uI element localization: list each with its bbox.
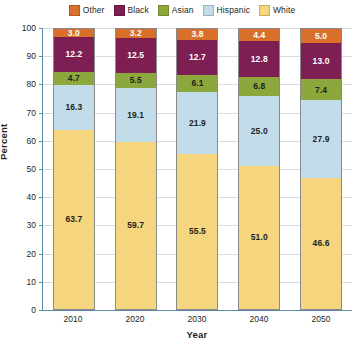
bar-column-2030[interactable]: 3.812.76.121.955.5 xyxy=(176,28,218,310)
bar-column-2050[interactable]: 5.013.07.427.946.6 xyxy=(300,28,342,310)
bar-segment-value: 3.2 xyxy=(130,29,142,38)
bar-segment-asian[interactable]: 4.7 xyxy=(54,72,94,85)
y-tick-label: 80 xyxy=(27,79,36,89)
bar-segment-white[interactable]: 55.5 xyxy=(177,154,217,309)
bar-segment-white[interactable]: 63.7 xyxy=(54,130,94,308)
bar-segment-value: 63.7 xyxy=(65,215,82,224)
bar-segment-white[interactable]: 46.6 xyxy=(301,178,341,308)
y-tick-label: 30 xyxy=(27,220,36,230)
bar-segment-asian[interactable]: 6.1 xyxy=(177,75,217,92)
bar-segment-value: 6.1 xyxy=(191,79,203,88)
bar-segment-value: 16.3 xyxy=(65,103,82,112)
bar-segment-hispanic[interactable]: 25.0 xyxy=(239,96,279,166)
bars-container: 3.012.24.716.363.73.212.55.519.159.73.81… xyxy=(43,28,352,310)
bar-column-2020[interactable]: 3.212.55.519.159.7 xyxy=(115,28,157,310)
bar-segment-asian[interactable]: 5.5 xyxy=(116,73,156,88)
bar-segment-other[interactable]: 4.4 xyxy=(239,29,279,41)
bar-segment-value: 6.8 xyxy=(253,82,265,91)
legend-swatch-asian-icon xyxy=(158,5,169,16)
legend-swatch-black-icon xyxy=(114,5,125,16)
bar-column-2010[interactable]: 3.012.24.716.363.7 xyxy=(53,28,95,310)
x-tick-label-2040: 2040 xyxy=(238,314,280,324)
stacked-bar-chart: OtherBlackAsianHispanicWhite 10090807060… xyxy=(0,0,364,346)
bar-segment-value: 12.2 xyxy=(65,50,82,59)
x-axis-ticks: 20102020203020402050 xyxy=(42,314,352,328)
bar-stack: 3.012.24.716.363.7 xyxy=(53,28,95,310)
x-tick-label-2030: 2030 xyxy=(176,314,218,324)
bar-segment-value: 25.0 xyxy=(251,127,268,136)
bar-segment-value: 12.7 xyxy=(189,53,206,62)
legend-swatch-hispanic-icon xyxy=(203,5,214,16)
y-tick-label: 70 xyxy=(27,108,36,118)
bar-segment-hispanic[interactable]: 19.1 xyxy=(116,88,156,141)
bar-segment-value: 46.6 xyxy=(313,239,330,248)
bar-segment-black[interactable]: 12.2 xyxy=(54,37,94,71)
bar-segment-hispanic[interactable]: 27.9 xyxy=(301,100,341,178)
bar-stack: 5.013.07.427.946.6 xyxy=(300,28,342,310)
legend-item-hispanic[interactable]: Hispanic xyxy=(203,5,250,16)
bar-segment-asian[interactable]: 7.4 xyxy=(301,79,341,100)
legend-label: Asian xyxy=(172,5,194,15)
legend-swatch-white-icon xyxy=(259,5,270,16)
bar-segment-other[interactable]: 3.8 xyxy=(177,29,217,40)
y-tick-label: 0 xyxy=(31,305,36,315)
y-tick-label: 10 xyxy=(27,277,36,287)
bar-segment-black[interactable]: 12.8 xyxy=(239,41,279,77)
bar-segment-hispanic[interactable]: 21.9 xyxy=(177,92,217,153)
bar-segment-value: 5.5 xyxy=(130,76,142,85)
legend-item-asian[interactable]: Asian xyxy=(158,5,194,16)
bar-segment-value: 3.0 xyxy=(68,29,80,37)
bar-segment-value: 5.0 xyxy=(315,32,327,41)
bar-segment-black[interactable]: 13.0 xyxy=(301,43,341,79)
bar-segment-value: 12.5 xyxy=(127,51,144,60)
y-tick-label: 90 xyxy=(27,51,36,61)
legend-item-other[interactable]: Other xyxy=(69,5,105,16)
y-tick-label: 100 xyxy=(22,23,36,33)
y-tick-label: 60 xyxy=(27,136,36,146)
bar-segment-value: 21.9 xyxy=(189,119,206,128)
bar-segment-other[interactable]: 3.0 xyxy=(54,29,94,37)
x-axis-title: Year xyxy=(42,329,352,340)
bar-segment-value: 19.1 xyxy=(127,111,144,120)
bar-segment-black[interactable]: 12.7 xyxy=(177,40,217,76)
legend-swatch-other-icon xyxy=(69,5,80,16)
y-tick-label: 50 xyxy=(27,164,36,174)
bar-segment-value: 59.7 xyxy=(127,221,144,230)
bar-segment-value: 55.5 xyxy=(189,227,206,236)
plot-area: 1009080706050403020100 3.012.24.716.363.… xyxy=(42,28,352,311)
bar-stack: 3.212.55.519.159.7 xyxy=(115,28,157,310)
legend-item-black[interactable]: Black xyxy=(114,5,149,16)
bar-segment-value: 13.0 xyxy=(313,57,330,66)
bar-segment-value: 7.4 xyxy=(315,86,327,95)
bar-segment-value: 12.8 xyxy=(251,55,268,64)
bar-segment-other[interactable]: 3.2 xyxy=(116,29,156,38)
legend-label: Other xyxy=(83,5,105,15)
x-tick-label-2010: 2010 xyxy=(52,314,94,324)
y-tick-label: 20 xyxy=(27,249,36,259)
bar-segment-asian[interactable]: 6.8 xyxy=(239,77,279,96)
bar-segment-value: 27.9 xyxy=(313,135,330,144)
legend-label: White xyxy=(273,5,295,15)
bar-segment-value: 4.7 xyxy=(68,74,80,83)
bar-segment-hispanic[interactable]: 16.3 xyxy=(54,85,94,131)
chart-legend: OtherBlackAsianHispanicWhite xyxy=(0,2,364,18)
bar-segment-black[interactable]: 12.5 xyxy=(116,38,156,73)
bar-column-2040[interactable]: 4.412.86.825.051.0 xyxy=(238,28,280,310)
bar-stack: 4.412.86.825.051.0 xyxy=(238,28,280,310)
bar-segment-other[interactable]: 5.0 xyxy=(301,29,341,43)
bar-segment-value: 51.0 xyxy=(251,233,268,242)
bar-segment-value: 4.4 xyxy=(253,31,265,40)
x-tick-label-2050: 2050 xyxy=(300,314,342,324)
y-axis-title: Percent xyxy=(0,124,9,160)
bar-segment-value: 3.8 xyxy=(191,30,203,39)
bar-stack: 3.812.76.121.955.5 xyxy=(176,28,218,310)
legend-item-white[interactable]: White xyxy=(259,5,295,16)
legend-label: Hispanic xyxy=(217,5,250,15)
legend-label: Black xyxy=(128,5,149,15)
bar-segment-white[interactable]: 51.0 xyxy=(239,166,279,309)
y-tick-mark xyxy=(39,310,43,311)
bar-segment-white[interactable]: 59.7 xyxy=(116,142,156,309)
x-tick-label-2020: 2020 xyxy=(114,314,156,324)
y-tick-label: 40 xyxy=(27,192,36,202)
